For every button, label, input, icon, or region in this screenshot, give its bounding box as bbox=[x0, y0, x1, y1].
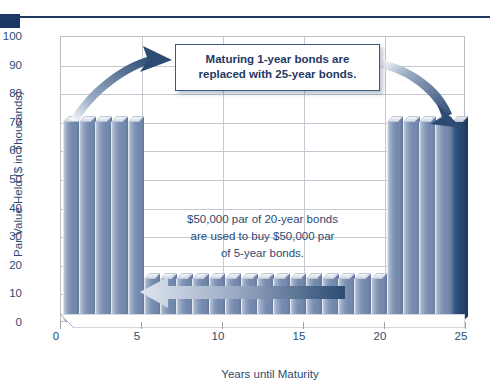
inner-annotation: $50,000 par of 20-year bonds are used to… bbox=[155, 211, 370, 262]
y-tick-90: 90 bbox=[0, 59, 22, 71]
inner-note-line-2: are used to buy $50,000 par bbox=[155, 228, 370, 245]
gridline-v-5 bbox=[142, 37, 143, 321]
gridline-v-20 bbox=[385, 37, 386, 321]
callout-box-top: Maturing 1-year bonds are replaced with … bbox=[175, 44, 380, 91]
x-tickmark-10 bbox=[222, 322, 223, 329]
y-tick-10: 10 bbox=[0, 287, 22, 299]
x-tick-10: 10 bbox=[203, 330, 233, 342]
y-tick-80: 80 bbox=[0, 87, 22, 99]
x-tick-25: 25 bbox=[446, 330, 476, 342]
y-tick-40: 40 bbox=[0, 202, 22, 214]
x-tick-15: 15 bbox=[284, 330, 314, 342]
callout-line-2: replaced with 25-year bonds. bbox=[184, 67, 371, 82]
x-tick-5: 5 bbox=[122, 330, 152, 342]
y-tick-20: 20 bbox=[0, 259, 22, 271]
x-tick-0: 0 bbox=[41, 330, 71, 342]
x-tickmark-20 bbox=[384, 322, 385, 329]
gridline-h-40 bbox=[61, 209, 464, 210]
inner-note-line-1: $50,000 par of 20-year bonds bbox=[155, 211, 370, 228]
callout-line-1: Maturing 1-year bonds are bbox=[184, 52, 371, 67]
x-tickmark-0 bbox=[60, 322, 61, 329]
gridline-h-50 bbox=[61, 180, 464, 181]
y-tick-70: 70 bbox=[0, 116, 22, 128]
gridline-h-20 bbox=[61, 266, 464, 267]
gridline-h-70 bbox=[61, 123, 464, 124]
gridline-h-80 bbox=[61, 94, 464, 95]
y-tick-60: 60 bbox=[0, 144, 22, 156]
y-tick-100: 100 bbox=[0, 30, 22, 42]
x-tickmark-15 bbox=[303, 322, 304, 329]
x-tick-20: 20 bbox=[365, 330, 395, 342]
y-tick-50: 50 bbox=[0, 173, 22, 185]
y-tick-30: 30 bbox=[0, 230, 22, 242]
gridline-h-10 bbox=[61, 294, 464, 295]
x-axis-title: Years until Maturity bbox=[60, 368, 480, 380]
gridline-h-60 bbox=[61, 151, 464, 152]
x-tickmark-5 bbox=[141, 322, 142, 329]
x-tickmark-25 bbox=[465, 322, 466, 329]
inner-note-line-3: of 5-year bonds. bbox=[155, 245, 370, 262]
chart-figure: Par Value Held ($ in Thousands) 100 90 8… bbox=[0, 18, 490, 383]
y-tick-0: 0 bbox=[0, 316, 22, 328]
